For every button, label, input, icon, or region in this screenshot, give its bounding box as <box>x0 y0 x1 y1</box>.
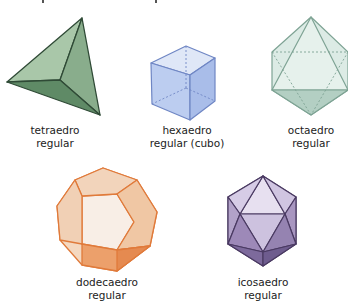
tetrahedron-shape <box>7 18 100 115</box>
caption-line-2: regular <box>208 289 318 302</box>
tetrahedron-caption: tetraedro regular <box>0 124 110 150</box>
platonic-solids-figure <box>0 0 348 306</box>
dodecahedron-caption: dodecaedro regular <box>52 276 162 302</box>
icosahedron-caption: icosaedro regular <box>208 276 318 302</box>
hexahedron-caption: hexaedro regular (cubo) <box>132 124 242 150</box>
caption-line-1: dodecaedro <box>52 276 162 289</box>
octahedron-shape <box>272 17 348 115</box>
cube-shape <box>151 46 215 120</box>
caption-line-1: icosaedro <box>208 276 318 289</box>
caption-line-2: regular <box>0 137 110 150</box>
caption-line-2: regular (cubo) <box>132 137 242 150</box>
icosahedron-shape <box>228 176 296 266</box>
caption-line-2: regular <box>52 289 162 302</box>
dodecahedron-shape <box>57 168 157 271</box>
caption-line-1: tetraedro <box>0 124 110 137</box>
octahedron-caption: octaedro regular <box>256 124 348 150</box>
caption-line-1: octaedro <box>256 124 348 137</box>
caption-line-2: regular <box>256 137 348 150</box>
caption-line-1: hexaedro <box>132 124 242 137</box>
